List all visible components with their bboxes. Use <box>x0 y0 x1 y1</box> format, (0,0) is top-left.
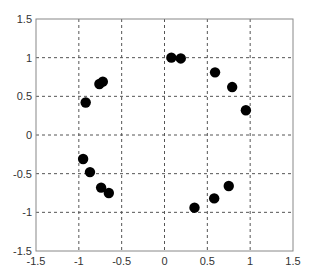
data-point <box>224 181 234 191</box>
y-tick-label: 1 <box>26 52 32 64</box>
data-point <box>209 193 219 203</box>
y-tick-label: -1.5 <box>13 245 32 257</box>
x-tick-label: 0 <box>161 255 167 267</box>
data-point <box>210 67 220 77</box>
data-point <box>80 97 90 107</box>
data-point <box>241 105 251 115</box>
y-tick-label: -0.5 <box>13 168 32 180</box>
x-tick-label: -0.5 <box>112 255 131 267</box>
y-tick-label: -1 <box>22 206 32 218</box>
data-point <box>227 82 237 92</box>
x-tick-label: -1 <box>74 255 84 267</box>
data-point <box>98 76 108 86</box>
data-point <box>85 167 95 177</box>
data-point <box>176 53 186 63</box>
scatter-chart: -1.5-1-0.500.511.5 -1.5-1-0.500.511.5 <box>0 0 313 278</box>
data-point <box>189 202 199 212</box>
y-tick-label: 0 <box>26 129 32 141</box>
x-tick-label: 1 <box>247 255 253 267</box>
y-axis-tick-labels: -1.5-1-0.500.511.5 <box>13 13 32 257</box>
data-point <box>78 154 88 164</box>
x-tick-label: 1.5 <box>285 255 300 267</box>
y-tick-label: 0.5 <box>17 90 32 102</box>
x-axis-tick-labels: -1.5-1-0.500.511.5 <box>27 255 301 267</box>
data-point <box>104 188 114 198</box>
y-tick-label: 1.5 <box>17 13 32 25</box>
x-tick-label: 0.5 <box>200 255 215 267</box>
data-point <box>166 52 176 62</box>
